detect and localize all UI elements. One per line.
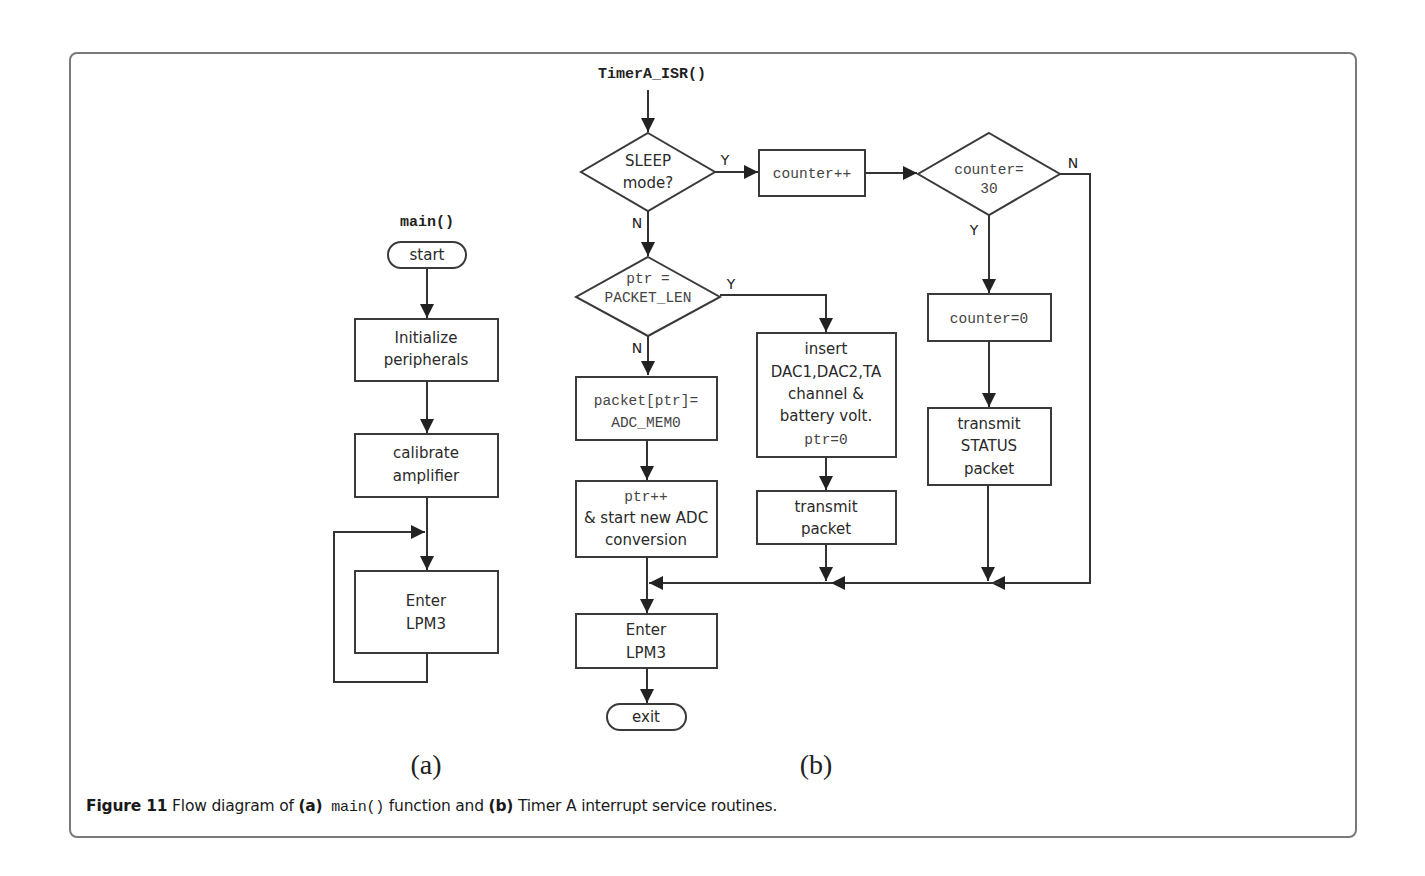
- svg-text:transmit: transmit: [957, 415, 1020, 433]
- figure-caption: Figure 11 Flow diagram of (a) main() fun…: [86, 797, 777, 816]
- svg-text:PACKET_LEN: PACKET_LEN: [604, 290, 691, 306]
- node-exit: exit: [607, 704, 686, 730]
- svg-text:STATUS: STATUS: [961, 437, 1017, 455]
- sublabel-a: (a): [410, 749, 441, 780]
- svg-text:LPM3: LPM3: [626, 644, 666, 662]
- svg-text:counter++: counter++: [773, 166, 851, 182]
- svg-text:Enter: Enter: [406, 592, 447, 610]
- svg-text:ptr=0: ptr=0: [804, 432, 848, 448]
- svg-text:channel &: channel &: [788, 385, 864, 403]
- node-start: start: [388, 242, 466, 268]
- svg-text:& start new ADC: & start new ADC: [584, 509, 708, 527]
- node-counter-increment: counter++: [759, 150, 865, 196]
- caption-figure-number: Figure 11: [86, 797, 167, 815]
- svg-text:SLEEP: SLEEP: [625, 152, 671, 170]
- diagram-a: main() start Initialize peripherals cali…: [334, 214, 498, 780]
- svg-text:amplifier: amplifier: [393, 467, 460, 485]
- node-initialize-peripherals: Initialize peripherals: [355, 319, 498, 381]
- isr-title: TimerA_ISR(): [598, 66, 706, 83]
- svg-text:peripherals: peripherals: [384, 351, 469, 369]
- flow-diagram: main() start Initialize peripherals cali…: [0, 0, 1425, 876]
- node-ptr-increment: ptr++ & start new ADC conversion: [576, 481, 717, 557]
- svg-text:transmit: transmit: [794, 498, 857, 516]
- node-enter-lpm3-b: Enter LPM3: [576, 614, 717, 668]
- label-counter-no: N: [1068, 155, 1078, 171]
- svg-text:packet[ptr]=: packet[ptr]=: [594, 393, 698, 409]
- svg-text:calibrate: calibrate: [393, 444, 459, 462]
- svg-text:ptr =: ptr =: [626, 271, 670, 287]
- node-counter-30-decision: counter= 30: [918, 133, 1060, 215]
- svg-text:mode?: mode?: [623, 174, 674, 192]
- svg-text:packet: packet: [964, 460, 1014, 478]
- node-calibrate-amplifier: calibrate amplifier: [355, 434, 498, 497]
- svg-text:ADC_MEM0: ADC_MEM0: [611, 415, 681, 431]
- label-ptr-no: N: [632, 340, 642, 356]
- main-title: main(): [400, 214, 454, 231]
- svg-text:start: start: [410, 246, 445, 264]
- label-sleep-no: N: [632, 215, 642, 231]
- node-transmit-packet: transmit packet: [757, 491, 896, 544]
- svg-text:30: 30: [980, 181, 997, 197]
- node-ptr-packet-len-decision: ptr = PACKET_LEN: [576, 257, 720, 336]
- node-sleep-mode-decision: SLEEP mode?: [581, 133, 715, 211]
- svg-text:LPM3: LPM3: [406, 615, 446, 633]
- node-insert-dac: insert DAC1,DAC2,TA channel & battery vo…: [757, 333, 896, 457]
- svg-text:counter=: counter=: [954, 162, 1024, 178]
- svg-text:exit: exit: [632, 708, 660, 726]
- edge-counter-no-merge: [991, 174, 1090, 583]
- label-counter-yes: Y: [969, 222, 979, 238]
- edge-ptr-insert: [720, 295, 826, 332]
- svg-text:battery volt.: battery volt.: [780, 407, 872, 425]
- svg-text:insert: insert: [805, 340, 848, 358]
- node-enter-lpm3-a: Enter LPM3: [355, 571, 498, 653]
- svg-text:DAC1,DAC2,TA: DAC1,DAC2,TA: [771, 363, 882, 381]
- node-packet-store: packet[ptr]= ADC_MEM0: [576, 377, 717, 440]
- diagram-b: TimerA_ISR() SLEEP mode? Y N counter++ c…: [576, 66, 1090, 780]
- svg-text:ptr++: ptr++: [624, 489, 668, 505]
- sublabel-b: (b): [800, 749, 833, 780]
- svg-text:counter=0: counter=0: [950, 311, 1028, 327]
- label-sleep-yes: Y: [720, 152, 730, 168]
- svg-text:Initialize: Initialize: [395, 329, 458, 347]
- node-transmit-status-packet: transmit STATUS packet: [928, 408, 1051, 485]
- svg-text:conversion: conversion: [605, 531, 687, 549]
- node-counter-reset: counter=0: [928, 294, 1051, 341]
- label-ptr-yes: Y: [726, 276, 736, 292]
- svg-text:packet: packet: [801, 520, 851, 538]
- svg-text:Enter: Enter: [626, 621, 667, 639]
